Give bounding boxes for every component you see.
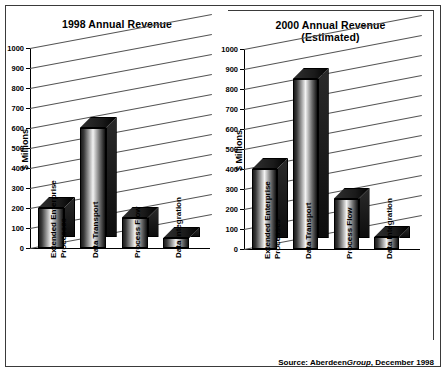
x-category-label: Process Flow [345,207,355,259]
y-tick-mark [240,129,244,130]
y-tick-label: 1000 [0,44,24,53]
y-tick-mark [26,228,30,229]
bar-side-face [106,117,117,237]
y-tick-label: 600 [0,124,24,133]
source-brand: Group [347,358,371,367]
plot-area-1998: 01002003004005006007008009001000Extended… [30,48,216,248]
y-tick-label: 0 [0,244,24,253]
y-tick-mark [26,188,30,189]
x-category-label-line: Process Flow [345,207,355,259]
chart-panel-2000: 2000 Annual Revenue (Estimated) $ Millio… [228,10,434,340]
x-category-label: Data Integration [385,198,395,259]
x-category-label-line: Processes [59,180,69,258]
x-category-label: Extended EnterpriseProcesses [263,181,282,259]
y-tick-label: 300 [0,184,24,193]
x-category-label: Data Integration [174,197,184,258]
y-tick-mark [240,49,244,50]
y-tick-mark [240,89,244,90]
y-tick-label: 800 [212,85,238,94]
y-tick-mark [240,69,244,70]
y-tick-label: 800 [0,84,24,93]
y-tick-mark [240,149,244,150]
revenue-charts-figure: 1998 Annual Revenue $ Millions 010020030… [0,0,446,375]
x-category-label-line: Extended Enterprise [263,181,273,259]
y-tick-label: 200 [212,205,238,214]
x-category-label: Extended EnterpriseProcesses [49,180,68,258]
y-tick-label: 400 [0,164,24,173]
x-category-label-line: Processes [273,181,283,259]
x-category-label-line: Data Transport [304,203,314,259]
x-category-label-line: Data Integration [174,197,184,258]
x-category-label-line: Process Flow [133,206,143,258]
y-tick-mark [240,169,244,170]
y-tick-label: 1000 [212,45,238,54]
chart-title-1998: 1998 Annual Revenue [12,18,222,30]
chart-panel-1998: 1998 Annual Revenue $ Millions 010020030… [12,10,222,340]
y-tick-label: 300 [212,185,238,194]
bar-side-face [318,68,329,238]
y-tick-mark [240,189,244,190]
y-tick-label: 500 [212,145,238,154]
gridline [244,95,422,130]
y-tick-mark [26,88,30,89]
y-tick-label: 400 [212,165,238,174]
y-tick-label: 700 [0,104,24,113]
y-tick-label: 500 [0,144,24,153]
y-tick-mark [26,208,30,209]
x-category-label: Data Transport [304,203,314,259]
y-tick-mark [26,68,30,69]
gridline [30,134,212,169]
x-category-label-line: Data Transport [91,202,101,258]
y-tick-label: 200 [0,204,24,213]
y-tick-mark [26,168,30,169]
y-tick-label: 700 [212,105,238,114]
gridline [30,114,212,149]
gridline [244,115,422,150]
y-tick-label: 600 [212,125,238,134]
y-tick-mark [26,128,30,129]
x-category-label-line: Data Integration [385,198,395,259]
y-tick-label: 100 [0,224,24,233]
y-tick-mark [240,249,244,250]
y-tick-mark [240,209,244,210]
y-tick-mark [240,109,244,110]
x-category-label: Process Flow [133,206,143,258]
y-tick-mark [26,48,30,49]
source-prefix: Source: Aberdeen [278,358,347,367]
gridline [30,74,212,109]
y-tick-mark [240,229,244,230]
plot-area-2000: 01002003004005006007008009001000Extended… [244,49,426,249]
y-tick-label: 900 [0,64,24,73]
source-note: Source: AberdeenGroup, December 1998 [278,358,434,367]
x-category-label: Data Transport [91,202,101,258]
y-tick-label: 900 [212,65,238,74]
gridline [244,55,422,90]
y-tick-mark [26,108,30,109]
y-tick-mark [26,148,30,149]
y-tick-label: 0 [212,245,238,254]
gridline [30,94,212,129]
y-tick-label: 100 [212,225,238,234]
gridline [244,75,422,110]
gridline [30,54,212,89]
source-suffix: , December 1998 [371,358,434,367]
x-category-label-line: Extended Enterprise [49,180,59,258]
y-tick-mark [26,248,30,249]
gridline [30,34,212,69]
